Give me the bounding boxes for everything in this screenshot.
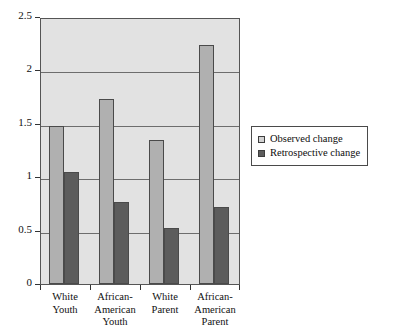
bar-group (91, 19, 141, 284)
plot-area (40, 18, 240, 285)
bar-retrospective (114, 202, 129, 284)
legend-swatch-retrospective (258, 150, 265, 157)
x-axis-tick-mark (40, 285, 41, 290)
bar-group (141, 19, 191, 284)
legend-label: Observed change (270, 133, 343, 145)
y-axis-tick-label: 0 (27, 277, 33, 288)
bar-chart-figure: 00.511.522.5 WhiteYouthAfrican-AmericanY… (0, 0, 395, 331)
x-axis-tick-mark (140, 285, 141, 290)
legend-swatch-observed (258, 136, 265, 143)
x-axis-label-line: American (184, 304, 246, 317)
x-axis-label-line: Parent (184, 316, 246, 329)
x-axis-tick-mark (239, 285, 240, 290)
bar-observed (149, 140, 164, 284)
x-axis-label: African-AmericanParent (184, 291, 246, 329)
bar-retrospective (164, 228, 179, 284)
bar-retrospective (214, 207, 229, 284)
x-axis-tick-mark (190, 285, 191, 290)
y-axis: 00.511.522.5 (0, 18, 40, 285)
y-axis-tick-label: 1 (27, 170, 33, 181)
bar-retrospective (64, 172, 79, 284)
legend-item: Retrospective change (258, 146, 360, 160)
x-axis-tick-mark (90, 285, 91, 290)
y-axis-tick-label: 0.5 (18, 224, 32, 235)
bars-layer (41, 19, 239, 284)
bar-observed (199, 45, 214, 284)
bar-observed (49, 126, 64, 284)
bar-group (41, 19, 91, 284)
legend-item: Observed change (258, 132, 360, 146)
y-axis-tick-label: 2.5 (18, 10, 32, 21)
y-axis-tick-label: 1.5 (18, 117, 32, 128)
bar-group (191, 19, 241, 284)
x-axis-label-line: African- (184, 291, 246, 304)
chart-legend: Observed changeRetrospective change (251, 126, 368, 166)
bar-observed (99, 99, 114, 284)
y-axis-tick-label: 2 (27, 63, 33, 74)
legend-label: Retrospective change (270, 147, 360, 159)
x-axis-labels: WhiteYouthAfrican-AmericanYouthWhitePare… (40, 291, 240, 331)
x-axis-label-line: Youth (84, 316, 146, 329)
